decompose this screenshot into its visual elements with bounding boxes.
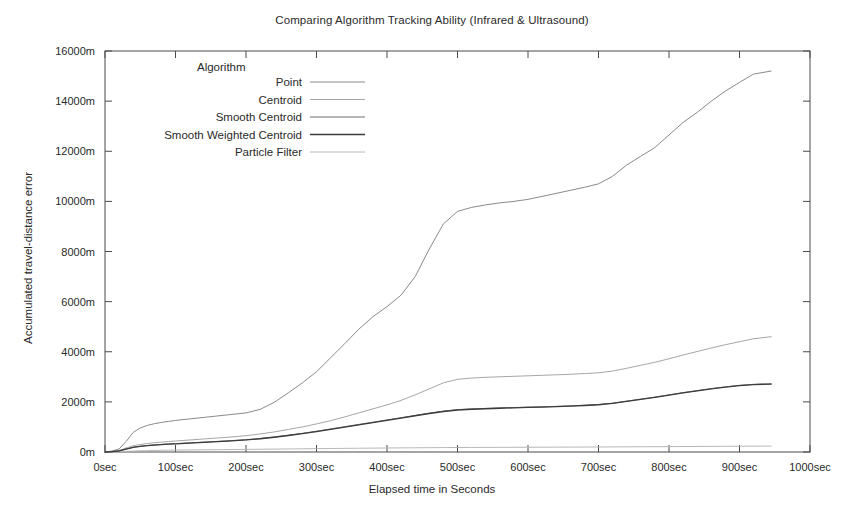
legend-item-label: Point <box>0 76 302 88</box>
legend-item-label: Centroid <box>0 94 302 106</box>
legend-title: Algorithm <box>197 61 246 73</box>
legend-item-label: Smooth Centroid <box>0 111 302 123</box>
chart-legend: AlgorithmPointCentroidSmooth CentroidSmo… <box>0 0 864 524</box>
legend-item-label: Particle Filter <box>0 146 302 158</box>
legend-item-label: Smooth Weighted Centroid <box>0 129 302 141</box>
chart-figure: Comparing Algorithm Tracking Ability (In… <box>0 0 864 524</box>
